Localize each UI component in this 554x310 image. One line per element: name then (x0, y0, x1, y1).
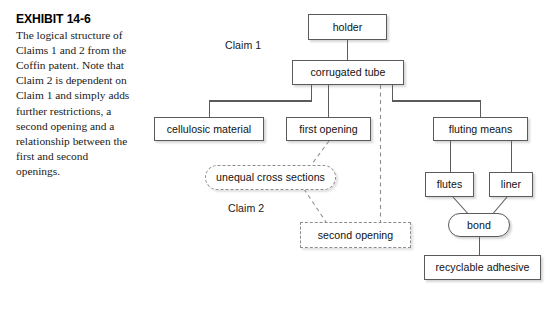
node-first-opening[interactable]: first opening (286, 117, 371, 141)
claim-structure-diagram: Claim 1 Claim 2 holder corrugated tube c… (0, 0, 554, 310)
node-second-opening[interactable]: second opening (300, 222, 411, 248)
edge-first-opening-to-unequal-cross-sections (309, 141, 329, 168)
node-cellulosic-material[interactable]: cellulosic material (154, 117, 264, 141)
group-label-claim-1: Claim 1 (225, 39, 261, 51)
node-bond[interactable]: bond (448, 213, 510, 237)
node-holder[interactable]: holder (308, 14, 387, 40)
node-unequal-cross-sections[interactable]: unequal cross sections (205, 165, 336, 190)
edge-corrugated-tube-to-cellulosic-material (210, 85, 312, 117)
group-label-claim-2: Claim 2 (228, 202, 264, 214)
exhibit-figure: EXHIBIT 14-6 The logical structure of Cl… (0, 0, 554, 310)
node-fluting-means[interactable]: fluting means (433, 117, 528, 141)
node-recyclable-adhesive[interactable]: recyclable adhesive (424, 255, 541, 280)
node-corrugated-tube[interactable]: corrugated tube (292, 60, 404, 85)
node-flutes[interactable]: flutes (425, 172, 474, 197)
edge-unequal-cross-sections-to-second-opening (304, 189, 326, 222)
node-liner[interactable]: liner (489, 172, 533, 197)
edge-corrugated-tube-to-fluting-means (393, 85, 481, 117)
